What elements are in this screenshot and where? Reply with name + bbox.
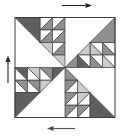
arrow-head	[5, 56, 10, 63]
quilt-block-figure	[0, 0, 131, 136]
bottom-rotation-arrow-icon	[47, 126, 75, 131]
quilt-block-rotation-diagram	[0, 0, 131, 136]
arrow-head	[86, 3, 93, 8]
left-rotation-arrow-icon	[5, 56, 10, 84]
top-rotation-arrow-icon	[62, 3, 92, 8]
quilt-block	[15, 18, 115, 118]
arrow-head	[47, 126, 54, 131]
